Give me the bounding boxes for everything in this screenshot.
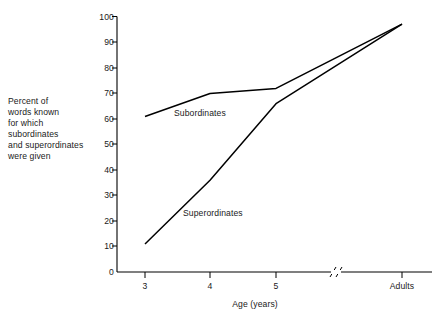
x-tick-marks	[145, 272, 402, 278]
series-line-superordinates	[145, 24, 402, 244]
y-tick-marks	[112, 17, 117, 247]
line-chart-figure: Percent of words known for which subordi…	[0, 0, 439, 317]
x-axis-break-gap	[331, 270, 341, 274]
plot-area	[0, 0, 439, 317]
series-line-subordinates	[145, 24, 402, 116]
